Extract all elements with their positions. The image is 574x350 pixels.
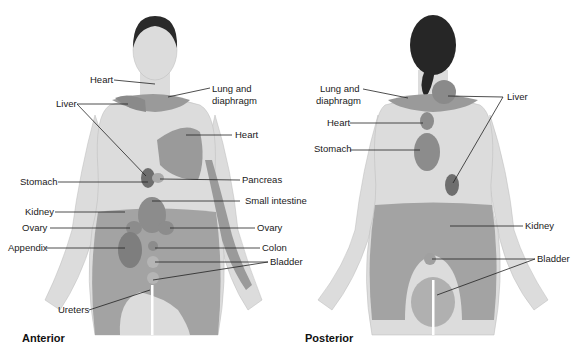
label-small-intestine: Small intestine [245,196,307,206]
label-heart-neck: Heart [90,75,113,85]
label-posterior-liver: Liver [507,92,528,102]
label-lung-diaphragm-1: Lung and [212,84,252,94]
anterior-body [45,16,262,335]
label-liver: Liver [56,99,77,109]
label-stomach: Stomach [20,177,58,187]
label-pancreas: Pancreas [242,175,282,185]
label-posterior-heart: Heart [327,118,350,128]
label-posterior-stomach: Stomach [314,144,352,154]
label-appendix: Appendix [8,243,48,253]
view-title-anterior: Anterior [22,332,65,344]
posterior-body [318,15,548,335]
label-bladder: Bladder [270,257,303,267]
view-title-posterior: Posterior [305,332,353,344]
label-lung-diaphragm-2: diaphragm [212,96,257,106]
referred-pain-figure [0,0,574,350]
label-ovary-right: Ovary [257,223,282,233]
label-posterior-lung-1: Lung and [320,84,360,94]
label-posterior-kidney: Kidney [525,221,554,231]
label-ureters: Ureters [58,305,89,315]
label-colon: Colon [262,243,287,253]
label-ovary-left: Ovary [22,223,47,233]
label-heart-chest: Heart [235,130,258,140]
label-posterior-lung-2: diaphragm [316,96,361,106]
label-kidney: Kidney [25,207,54,217]
label-posterior-bladder: Bladder [537,254,570,264]
